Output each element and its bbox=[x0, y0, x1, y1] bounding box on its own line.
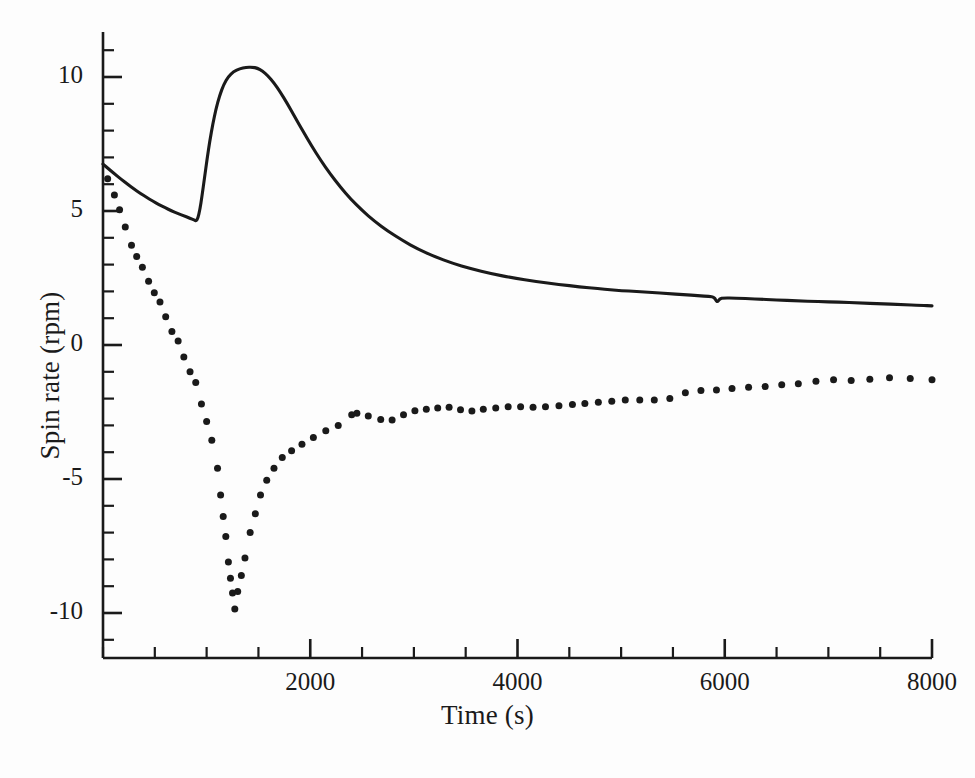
data-point-marker bbox=[457, 406, 464, 413]
data-point-marker bbox=[778, 381, 785, 388]
data-point-marker bbox=[886, 374, 893, 381]
data-point-marker bbox=[175, 337, 182, 344]
data-point-marker bbox=[411, 407, 418, 414]
data-point-marker bbox=[651, 396, 658, 403]
data-point-marker bbox=[234, 588, 241, 595]
x-tick-label: 2000 bbox=[240, 668, 380, 696]
x-tick-label: 6000 bbox=[655, 668, 795, 696]
data-point-marker bbox=[446, 404, 453, 411]
data-point-marker bbox=[468, 407, 475, 414]
data-point-marker bbox=[608, 398, 615, 405]
data-point-marker bbox=[365, 413, 372, 420]
data-point-marker bbox=[111, 191, 118, 198]
data-point-marker bbox=[762, 383, 769, 390]
data-point-marker bbox=[180, 354, 187, 361]
data-point-marker bbox=[795, 380, 802, 387]
data-point-marker bbox=[279, 454, 286, 461]
solid-curve bbox=[103, 67, 932, 306]
data-point-marker bbox=[104, 175, 111, 182]
data-point-marker bbox=[434, 404, 441, 411]
data-point-marker bbox=[288, 447, 295, 454]
data-point-marker bbox=[145, 278, 152, 285]
data-point-marker bbox=[214, 465, 221, 472]
data-point-marker bbox=[866, 376, 873, 383]
data-point-marker bbox=[830, 376, 837, 383]
y-tick-label: 10 bbox=[0, 61, 83, 89]
data-point-marker bbox=[247, 529, 254, 536]
x-tick-label: 8000 bbox=[862, 668, 975, 696]
data-point-marker bbox=[227, 575, 234, 582]
data-point-marker bbox=[505, 403, 512, 410]
data-point-marker bbox=[517, 403, 524, 410]
data-point-marker bbox=[187, 368, 194, 375]
data-point-marker bbox=[322, 427, 329, 434]
x-axis-title: Time (s) bbox=[0, 700, 975, 731]
data-point-marker bbox=[492, 404, 499, 411]
data-point-marker bbox=[192, 379, 199, 386]
chart-plot-area bbox=[0, 0, 975, 778]
data-point-marker bbox=[220, 513, 227, 520]
data-point-marker bbox=[812, 378, 819, 385]
data-point-marker bbox=[241, 555, 248, 562]
data-point-marker bbox=[400, 411, 407, 418]
data-point-marker bbox=[252, 510, 259, 517]
dotted-series bbox=[104, 175, 935, 612]
data-point-marker bbox=[848, 377, 855, 384]
data-point-marker bbox=[116, 206, 123, 213]
data-point-marker bbox=[222, 533, 229, 540]
data-point-marker bbox=[208, 437, 215, 444]
data-point-marker bbox=[929, 376, 936, 383]
data-point-marker bbox=[569, 401, 576, 408]
data-point-marker bbox=[713, 387, 720, 394]
data-point-marker bbox=[122, 224, 129, 231]
data-point-marker bbox=[231, 605, 238, 612]
x-tick-label: 4000 bbox=[448, 668, 588, 696]
data-point-marker bbox=[162, 313, 169, 320]
data-point-marker bbox=[622, 396, 629, 403]
data-point-marker bbox=[270, 465, 277, 472]
y-tick-label: -10 bbox=[0, 597, 83, 625]
data-point-marker bbox=[423, 406, 430, 413]
data-point-marker bbox=[263, 477, 270, 484]
data-point-marker bbox=[636, 396, 643, 403]
data-point-marker bbox=[310, 434, 317, 441]
data-point-marker bbox=[198, 400, 205, 407]
data-point-marker bbox=[907, 375, 914, 382]
data-point-marker bbox=[377, 416, 384, 423]
data-point-marker bbox=[666, 395, 673, 402]
y-axis-title: Spin rate (rpm) bbox=[35, 206, 66, 546]
data-point-marker bbox=[581, 400, 588, 407]
data-point-marker bbox=[682, 389, 689, 396]
data-point-marker bbox=[128, 242, 135, 249]
data-point-marker bbox=[217, 492, 224, 499]
data-point-marker bbox=[203, 418, 210, 425]
data-point-marker bbox=[480, 406, 487, 413]
tick-marks bbox=[103, 50, 932, 658]
data-point-marker bbox=[156, 299, 163, 306]
data-point-marker bbox=[133, 253, 140, 260]
data-point-marker bbox=[151, 289, 158, 296]
data-point-marker bbox=[257, 492, 264, 499]
data-point-marker bbox=[225, 559, 232, 566]
data-point-marker bbox=[555, 402, 562, 409]
data-point-marker bbox=[697, 387, 704, 394]
data-point-marker bbox=[389, 417, 396, 424]
data-point-marker bbox=[745, 384, 752, 391]
data-point-marker bbox=[729, 385, 736, 392]
data-point-marker bbox=[353, 410, 360, 417]
data-point-marker bbox=[238, 572, 245, 579]
data-point-marker bbox=[139, 264, 146, 271]
data-point-marker bbox=[168, 328, 175, 335]
data-point-marker bbox=[298, 441, 305, 448]
data-point-marker bbox=[530, 404, 537, 411]
data-point-marker bbox=[595, 399, 602, 406]
data-point-marker bbox=[335, 422, 342, 429]
data-point-marker bbox=[542, 403, 549, 410]
chart-figure: -10-50510 2000400060008000 Time (s) Spin… bbox=[0, 0, 975, 778]
